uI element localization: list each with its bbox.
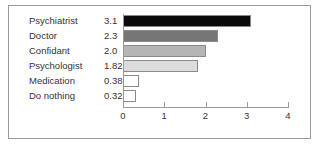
x-axis-tick: [206, 102, 207, 108]
x-axis-tick: [164, 102, 165, 108]
category-label: Do nothing: [29, 89, 101, 103]
bar: [123, 60, 198, 72]
bar-row: Doctor 2.3: [0, 29, 322, 43]
category-label: Confidant: [29, 44, 101, 58]
category-label: Medication: [29, 74, 101, 88]
x-axis-tick-label: 1: [154, 110, 174, 122]
x-axis-tick-label: 2: [196, 110, 216, 122]
plot-area: Psychiatrist 3.1 Doctor 2.3 Confidant 2.…: [0, 0, 322, 149]
bar: [123, 75, 139, 87]
x-axis-tick: [247, 102, 248, 108]
x-axis-tick: [288, 102, 289, 108]
category-label: Psychologist: [29, 59, 101, 73]
bar: [123, 90, 136, 102]
bar-row: Do nothing 0.32: [0, 89, 322, 103]
x-axis-tick-label: 3: [237, 110, 257, 122]
bar: [123, 15, 251, 27]
x-axis-tick-label: 0: [113, 110, 133, 122]
category-label: Psychiatrist: [29, 14, 101, 28]
y-axis-line: [123, 14, 124, 107]
category-label: Doctor: [29, 29, 101, 43]
bar-row: Psychologist 1.82: [0, 59, 322, 73]
bar: [123, 30, 218, 42]
bar: [123, 45, 206, 57]
bar-row: Medication 0.38: [0, 74, 322, 88]
chart-figure: Psychiatrist 3.1 Doctor 2.3 Confidant 2.…: [0, 0, 322, 149]
x-axis-tick-label: 4: [278, 110, 298, 122]
x-axis-tick: [123, 102, 124, 108]
bar-row: Psychiatrist 3.1: [0, 14, 322, 28]
bar-row: Confidant 2.0: [0, 44, 322, 58]
